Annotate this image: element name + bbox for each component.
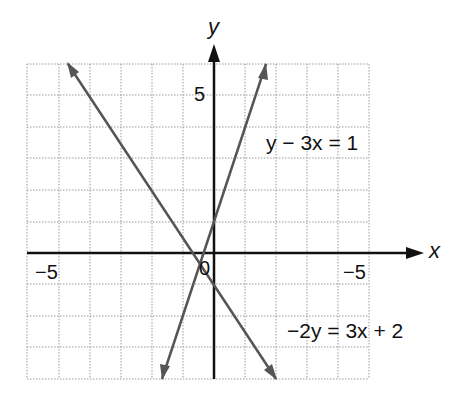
y-axis-arrow-icon [208, 44, 220, 62]
origin-label: 0 [199, 258, 210, 278]
equation-label-1: y − 3x = 1 [266, 132, 358, 153]
x-axis-arrow-icon [406, 247, 424, 259]
x-tick-label-left: −5 [35, 262, 58, 282]
y-tick-label-5: 5 [194, 84, 205, 104]
y-axis-label: y [208, 16, 219, 38]
equation-label-2: −2y = 3x + 2 [287, 320, 403, 341]
x-tick-label-right: −5 [343, 262, 366, 282]
arrow-down-icon [264, 364, 277, 380]
x-axis-label: x [429, 240, 440, 262]
